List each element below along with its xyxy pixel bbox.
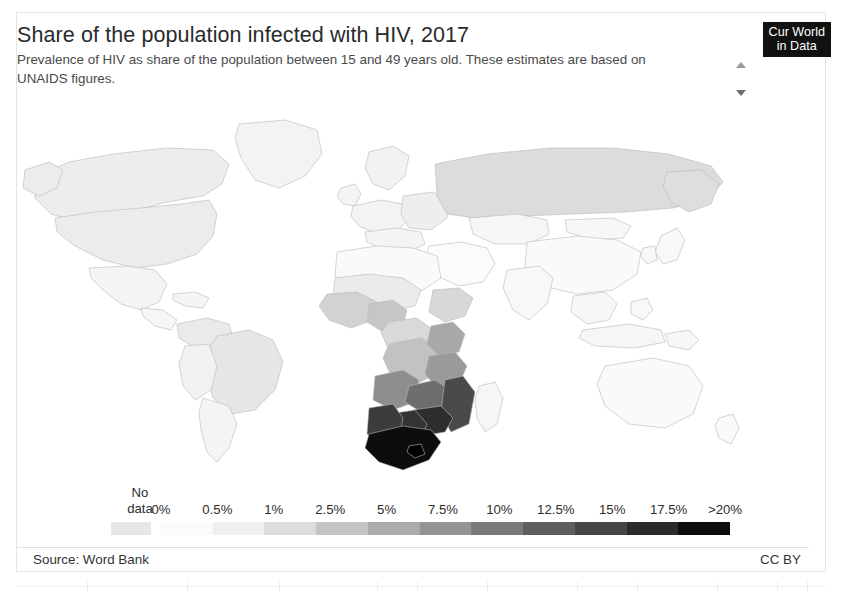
owid-logo[interactable]: Cur World in Data	[763, 22, 831, 57]
legend-tick-0: 0%	[151, 502, 170, 517]
legend-segment-7.5%[interactable]	[420, 522, 472, 535]
logo-line-1: Cur World	[769, 25, 825, 39]
legend-segment-0.5%[interactable]	[213, 522, 265, 535]
timeline-tick-10	[807, 582, 808, 591]
country-new-zealand	[715, 414, 739, 444]
timeline-slider[interactable]	[17, 578, 827, 598]
legend-tick-9: 17.5%	[650, 502, 687, 517]
legend-segment->20%[interactable]	[678, 522, 730, 535]
legend-tick-8: 15%	[599, 502, 625, 517]
legend-tick-5: 7.5%	[428, 502, 458, 517]
legend-tick-3: 2.5%	[315, 502, 345, 517]
timeline-tick-3	[377, 582, 378, 591]
map-svg	[17, 118, 809, 473]
legend-segment-0%[interactable]	[161, 522, 213, 535]
legend-segment-15%[interactable]	[575, 522, 627, 535]
timeline-tick-2	[279, 582, 280, 591]
country-greenland	[235, 120, 322, 188]
country-kazakhstan	[469, 214, 549, 244]
country-uk-ireland	[337, 184, 361, 206]
country-horn-of-africa	[429, 288, 473, 322]
timeline-tick-7	[637, 582, 638, 591]
country-indonesia	[579, 324, 665, 348]
country-south-africa	[365, 426, 441, 470]
timeline-tick-8	[717, 582, 718, 591]
timeline-tick-1	[187, 582, 188, 591]
screenshot-root: Share of the population infected with HI…	[0, 0, 843, 609]
legend-nodata-line2: data	[127, 501, 153, 516]
country-central-america	[141, 308, 177, 330]
chart-header: Share of the population infected with HI…	[17, 22, 717, 88]
country-southeast-asia	[571, 292, 617, 324]
country-caribbean	[173, 292, 209, 308]
chart-subtitle: Prevalence of HIV as share of the popula…	[17, 51, 687, 88]
map-legend: No data 0%0.5%1%2.5%5%7.5%10%12.5%15%17.…	[0, 480, 810, 542]
license-label[interactable]: CC BY	[760, 552, 801, 567]
legend-segment-5%[interactable]	[368, 522, 420, 535]
country-mexico	[89, 266, 167, 310]
timeline-tick-0	[87, 582, 88, 591]
legend-tick-labels: 0%0.5%1%2.5%5%7.5%10%12.5%15%17.5%>20%	[155, 502, 755, 520]
legend-nodata-line1: No	[132, 485, 149, 500]
logo-line-2: in Data	[769, 39, 825, 53]
timeline-tick-6	[577, 582, 578, 591]
country-papua-new-guinea	[665, 330, 699, 350]
country-australia	[597, 358, 703, 428]
legend-segment-2.5%[interactable]	[316, 522, 368, 535]
country-madagascar	[475, 382, 503, 432]
footer-divider	[17, 547, 809, 548]
legend-tick-10: >20%	[708, 502, 742, 517]
legend-nodata-swatch	[111, 522, 151, 535]
country-india	[503, 266, 553, 320]
legend-segment-1%[interactable]	[264, 522, 316, 535]
legend-segment-17.5%[interactable]	[627, 522, 679, 535]
source-label[interactable]: Source: Word Bank	[33, 552, 149, 567]
legend-segment-12.5%[interactable]	[523, 522, 575, 535]
timeline-tick-9	[777, 582, 778, 591]
legend-tick-7: 12.5%	[537, 502, 574, 517]
country-japan	[655, 228, 685, 264]
timeline-track	[17, 586, 827, 587]
timeline-tick-5	[487, 582, 488, 591]
country-brazil	[205, 330, 283, 414]
country-scandinavia	[365, 146, 409, 190]
chevron-down-icon[interactable]	[736, 90, 746, 96]
legend-tick-1: 0.5%	[202, 502, 232, 517]
timeline-tick-4	[417, 582, 418, 591]
country-korea	[641, 246, 657, 264]
page-title: Share of the population infected with HI…	[17, 22, 717, 48]
legend-segment-10%[interactable]	[471, 522, 523, 535]
legend-tick-4: 5%	[377, 502, 396, 517]
year-stepper[interactable]	[733, 62, 749, 96]
chart-footer: Source: Word Bank CC BY	[17, 552, 809, 574]
chevron-up-icon[interactable]	[736, 62, 746, 68]
world-choropleth-map[interactable]	[17, 118, 809, 473]
legend-tick-2: 1%	[264, 502, 283, 517]
legend-color-bar[interactable]	[161, 522, 730, 535]
country-philippines	[631, 298, 653, 320]
legend-tick-6: 10%	[486, 502, 512, 517]
